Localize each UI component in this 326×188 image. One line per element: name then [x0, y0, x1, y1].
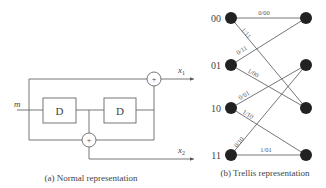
adder-bottom-symbol: + [87, 136, 92, 145]
adder-top-symbol: + [152, 75, 157, 84]
node-left-10 [225, 102, 237, 114]
node-right-11 [300, 149, 312, 161]
state-label-11: 11 [211, 150, 221, 161]
figure: m D D + + x1 x2 (a) Normal re [0, 0, 326, 188]
edge-label-00-10: 1/11 [240, 26, 253, 39]
edge-label-00-00: 0/00 [258, 9, 270, 16]
delay-label-2: D [116, 105, 124, 117]
trellis-representation: 0/00 1/11 0/11 1/00 0/01 1/10 0/10 1/01 … [211, 9, 312, 178]
caption-normal: (a) Normal representation [45, 173, 138, 183]
node-right-00 [300, 12, 312, 24]
edge-label-01-10: 1/00 [247, 67, 261, 79]
edge-label-11-11: 1/01 [260, 146, 272, 153]
output1-label: x1 [177, 65, 185, 76]
node-left-11 [225, 149, 237, 161]
state-label-10: 10 [211, 103, 221, 114]
delay-label-1: D [56, 105, 64, 117]
edge-label-10-11: 1/10 [241, 108, 255, 120]
node-right-01 [300, 59, 312, 71]
edge-label-11-01: 0/10 [232, 135, 245, 148]
state-label-01: 01 [211, 60, 221, 71]
normal-representation: m D D + + x1 x2 (a) Normal re [14, 65, 194, 183]
state-label-00: 00 [211, 13, 221, 24]
node-left-00 [225, 12, 237, 24]
edge-label-10-01: 0/01 [237, 89, 251, 101]
caption-trellis: (b) Trellis representation [221, 168, 310, 178]
node-right-10 [300, 102, 312, 114]
edge-01-00 [231, 18, 306, 65]
output2-label: x2 [177, 145, 185, 156]
edge-label-01-00: 0/11 [235, 44, 248, 56]
input-label: m [14, 99, 21, 109]
node-left-01 [225, 59, 237, 71]
